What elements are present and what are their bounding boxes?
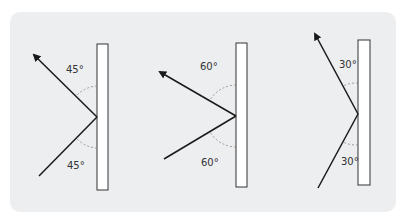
angle-label-bottom: 60° (201, 157, 219, 168)
angle-arc-top (77, 86, 97, 95)
angle-label-top: 30° (339, 59, 357, 70)
angle-arc-bottom (210, 132, 236, 147)
angle-arc-top (343, 83, 358, 86)
diagram-60: 60° 60° (160, 43, 247, 187)
angle-label-top: 60° (200, 61, 218, 72)
mirror (358, 40, 370, 185)
diagram-45: 45° 45° (34, 44, 108, 190)
reflected-ray (315, 34, 358, 114)
reflection-diagrams: 45° 45° 60° 60° 30° 30° (0, 0, 405, 222)
mirror (236, 43, 247, 187)
reflected-ray (160, 72, 236, 116)
angle-label-bottom: 30° (341, 156, 359, 167)
diagram-30: 30° 30° (315, 34, 370, 188)
mirror (97, 44, 108, 190)
angle-arc-bottom (343, 142, 358, 145)
incident-ray (164, 116, 236, 159)
angle-label-bottom: 45° (67, 160, 85, 171)
angle-label-top: 45° (66, 64, 84, 75)
incident-ray (318, 114, 358, 188)
angle-arc-top (210, 85, 236, 100)
angle-arc-bottom (77, 139, 97, 148)
